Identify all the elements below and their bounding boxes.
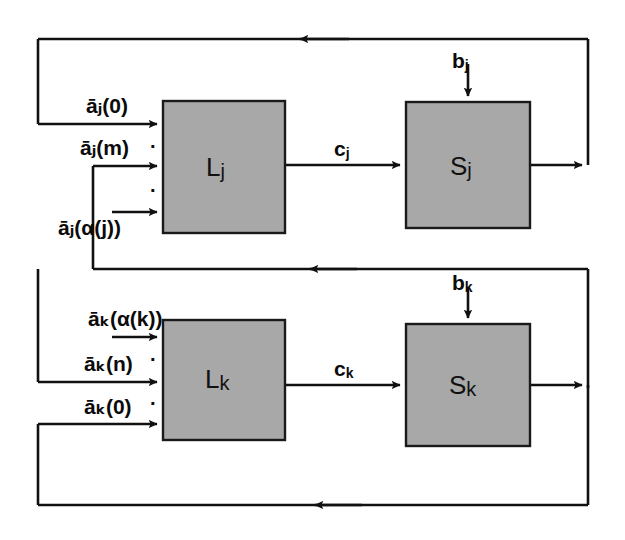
- ellipsis-dot-top-1: ·: [150, 136, 157, 156]
- input-label-aj-m: āⱼ(m): [80, 137, 129, 158]
- diagram-canvas: [0, 0, 625, 540]
- block-label-sk: Sk: [449, 370, 476, 401]
- input-label-aj-alpha: āⱼ(α(j)): [58, 217, 121, 238]
- ellipsis-dot-top-2: ·: [150, 180, 157, 200]
- signal-label-bj: bj: [452, 50, 469, 72]
- block-label-lk: Lk: [205, 364, 229, 395]
- signal-label-ck: ck: [334, 358, 353, 380]
- ellipsis-dot-bottom-2: ·: [150, 393, 157, 413]
- block-label-lj: Lj: [206, 152, 225, 183]
- signal-label-cj: cj: [334, 138, 350, 160]
- input-label-ak-0: āₖ(0): [84, 396, 132, 417]
- block-label-sj: Sj: [450, 151, 472, 182]
- block-diagram-figure: Lj Sj Lk Sk āⱼ(0) āⱼ(m) āⱼ(α(j)) āₖ(…: [0, 0, 625, 540]
- signal-label-bk: bk: [452, 272, 473, 294]
- input-label-ak-n: āₖ(n): [84, 353, 133, 374]
- input-label-ak-alpha: āₖ(α(k)): [88, 308, 162, 329]
- input-label-aj-0: āⱼ(0): [86, 95, 128, 116]
- ellipsis-dot-bottom-1: ·: [150, 349, 157, 369]
